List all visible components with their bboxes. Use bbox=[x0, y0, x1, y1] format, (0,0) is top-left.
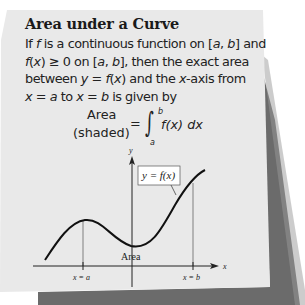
tick-a-label: x = a bbox=[72, 273, 90, 282]
function-curve bbox=[45, 170, 205, 260]
textbook-figure: Area under a Curve If f is a continuous … bbox=[0, 0, 305, 305]
tick-b-label: x = b bbox=[182, 273, 200, 282]
y-axis-label: y bbox=[128, 146, 133, 155]
curve-label: y = f(x) bbox=[141, 169, 175, 182]
curve-label-leader bbox=[171, 185, 176, 195]
area-graph: y = f(x) y x Area x = a x = b bbox=[0, 0, 305, 305]
x-axis-label: x bbox=[222, 262, 227, 271]
area-label: Area bbox=[121, 251, 141, 262]
